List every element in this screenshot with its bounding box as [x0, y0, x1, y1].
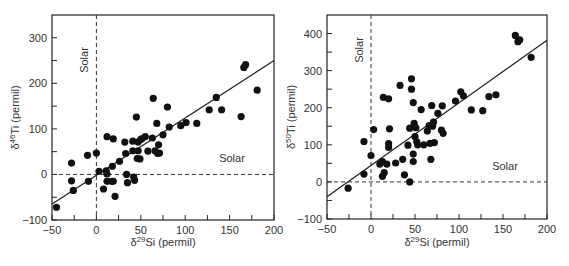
- data-point: [103, 133, 110, 140]
- data-point: [452, 97, 459, 104]
- y-tick-label: −100: [297, 213, 322, 225]
- x-tick-label: 100: [450, 223, 468, 235]
- data-point: [68, 177, 75, 184]
- data-point: [136, 155, 143, 162]
- data-point: [401, 171, 408, 178]
- data-point: [408, 86, 415, 93]
- y-tick-label: 300: [29, 32, 47, 44]
- data-point: [386, 125, 393, 132]
- y-tick-label: 100: [304, 139, 322, 151]
- y-tick-label: 0: [41, 168, 47, 180]
- solar-vertical-label: Solar: [353, 37, 365, 63]
- data-point: [110, 135, 117, 142]
- data-point: [150, 95, 157, 102]
- y-tick-label: 300: [304, 65, 322, 77]
- data-point: [420, 141, 427, 148]
- y-axis-title: δ46Ti (permil): [8, 85, 21, 149]
- data-point: [135, 147, 142, 154]
- data-point: [431, 139, 438, 146]
- data-point: [110, 178, 117, 185]
- data-point: [156, 149, 163, 156]
- data-point: [133, 113, 140, 120]
- data-point: [116, 158, 123, 165]
- y-tick-label: 0: [316, 176, 322, 188]
- x-tick-label: 0: [93, 224, 99, 236]
- y-tick-label: 400: [304, 28, 322, 40]
- data-point: [485, 93, 492, 100]
- x-tick-label: 50: [409, 223, 421, 235]
- data-point: [68, 159, 75, 166]
- data-point: [492, 91, 499, 98]
- data-point: [93, 149, 100, 156]
- chart-ti46-vs-si29: −50050100150200−1000100200300SolarSolarδ…: [8, 15, 283, 248]
- data-point: [155, 141, 162, 148]
- data-point: [430, 119, 437, 126]
- data-point: [404, 142, 411, 149]
- data-point: [370, 126, 377, 133]
- data-point: [516, 36, 523, 43]
- data-point: [479, 107, 486, 114]
- data-point: [206, 106, 213, 113]
- data-point: [427, 156, 434, 163]
- solar-horizontal-label: Solar: [492, 160, 518, 172]
- data-point: [383, 161, 390, 168]
- data-point: [153, 120, 160, 127]
- data-point: [392, 159, 399, 166]
- data-point: [408, 75, 415, 82]
- data-point: [410, 158, 417, 165]
- x-axis-title: δ29Si (permil): [404, 235, 469, 248]
- x-axis-title: δ29Si (permil): [130, 235, 195, 248]
- x-tick-label: 150: [220, 224, 238, 236]
- chart-ti50-vs-si29: −50050100150200−1000100200300400SolarSol…: [284, 15, 556, 248]
- data-point: [84, 152, 91, 159]
- y-tick-label: 200: [29, 77, 47, 89]
- data-point: [193, 120, 200, 127]
- data-point: [122, 150, 129, 157]
- data-point: [434, 110, 441, 117]
- data-point: [439, 102, 446, 109]
- data-point: [412, 124, 419, 131]
- data-point: [53, 204, 60, 211]
- data-point: [414, 141, 421, 148]
- y-tick-label: 200: [304, 102, 322, 114]
- data-point: [166, 123, 173, 130]
- data-point: [468, 106, 475, 113]
- data-point: [100, 185, 107, 192]
- x-tick-label: 150: [494, 223, 512, 235]
- data-point: [103, 170, 110, 177]
- data-point: [121, 139, 128, 146]
- y-axis-title: δ50Ti (permil): [284, 85, 297, 149]
- figure: −50050100150200−1000100200300SolarSolarδ…: [0, 0, 569, 266]
- data-point: [360, 171, 367, 178]
- data-point: [418, 106, 425, 113]
- data-point: [254, 87, 261, 94]
- y-tick-label: 100: [29, 123, 47, 135]
- data-point: [159, 131, 166, 138]
- x-tick-label: 0: [368, 223, 374, 235]
- data-point: [410, 99, 417, 106]
- data-point: [410, 150, 417, 157]
- data-point: [528, 54, 535, 61]
- data-point: [428, 102, 435, 109]
- data-point: [124, 179, 131, 186]
- x-tick-label: 200: [265, 224, 283, 236]
- data-point: [109, 163, 116, 170]
- data-point: [85, 178, 92, 185]
- data-point: [440, 130, 447, 137]
- x-tick-label: 100: [176, 224, 194, 236]
- data-point: [381, 169, 388, 176]
- data-point: [144, 148, 151, 155]
- data-point: [142, 133, 149, 140]
- data-point: [460, 92, 467, 99]
- data-point: [164, 103, 171, 110]
- data-point: [242, 61, 249, 68]
- data-point: [399, 156, 406, 163]
- data-point: [213, 94, 220, 101]
- data-point: [123, 171, 130, 178]
- data-point: [396, 82, 403, 89]
- solar-vertical-label: Solar: [78, 47, 90, 73]
- data-point: [360, 138, 367, 145]
- data-point: [131, 177, 138, 184]
- data-point: [238, 113, 245, 120]
- x-tick-label: 200: [538, 223, 556, 235]
